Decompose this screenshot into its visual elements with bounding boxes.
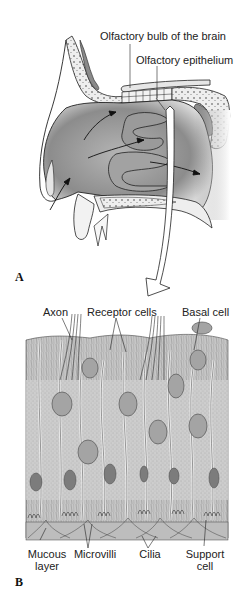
- label-mucous-line1: Mucous: [26, 548, 68, 560]
- label-support-line2: cell: [184, 560, 226, 572]
- label-mucous-line2: layer: [26, 560, 68, 572]
- panel-label-a: A: [15, 270, 24, 285]
- label-microvilli-line1: Microvilli: [72, 548, 118, 560]
- panel-a-nasal-cavity: [40, 36, 230, 296]
- label-microvilli: Microvilli: [72, 548, 118, 560]
- label-cilia: Cilia: [138, 548, 162, 560]
- label-olfactory-bulb: Olfactory bulb of the brain: [100, 30, 226, 42]
- label-support-cell: Support cell: [184, 548, 226, 572]
- label-receptor-cells: Receptor cells: [87, 306, 157, 318]
- label-mucous-layer: Mucous layer: [26, 548, 68, 572]
- label-cilia-line1: Cilia: [138, 548, 162, 560]
- panel-b-epithelium: [26, 314, 228, 548]
- label-support-line1: Support: [184, 548, 226, 560]
- label-basal-cell: Basal cell: [182, 306, 229, 318]
- label-axon: Axon: [43, 306, 68, 318]
- label-olfactory-epithelium: Olfactory epithelium: [136, 54, 233, 66]
- panel-label-b: B: [15, 575, 23, 590]
- olfactory-diagram: [0, 0, 243, 598]
